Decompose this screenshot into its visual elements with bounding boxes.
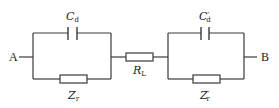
right-resistor-subscript: r (206, 95, 210, 103)
series-resistor-rl (126, 53, 153, 61)
left-resistor-zr (60, 75, 87, 83)
series-resistor-subscript: L (141, 70, 146, 78)
right-resistor-label: Z′r (199, 89, 210, 103)
circuit-diagram: A Cd Zr RL C′d Z′r B (0, 0, 279, 108)
right-resistor-zr-prime (193, 75, 220, 83)
left-resistor-label: Zr (67, 89, 80, 103)
left-capacitor-subscript: d (74, 16, 79, 24)
left-resistor-subscript: r (76, 95, 80, 103)
left-resistor-symbol: Z (67, 89, 76, 102)
right-capacitor-label: C′d (199, 10, 211, 24)
node-b-label: B (261, 50, 269, 64)
left-parallel-block (33, 27, 111, 83)
right-capacitor-subscript: d (206, 16, 211, 24)
series-resistor-symbol: R (132, 64, 141, 77)
left-capacitor-label: Cd (66, 10, 79, 24)
right-parallel-block (168, 27, 244, 83)
series-resistor-label: RL (132, 64, 146, 78)
node-a-label: A (9, 50, 18, 64)
